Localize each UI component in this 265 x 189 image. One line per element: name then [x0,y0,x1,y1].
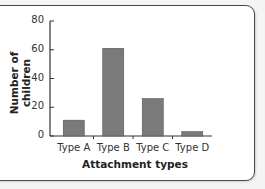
x-tick-label: Type D [172,142,212,153]
bars [63,48,203,136]
y-axis-label: Number of children [8,28,32,138]
x-tick-label: Type B [93,142,133,153]
x-tick-label: Type A [54,142,94,153]
bar-type-d [182,132,203,136]
bar-type-a [63,120,84,136]
x-axis-label: Attachment types [60,158,210,170]
bar-type-c [142,99,163,136]
x-tick-label: Type C [133,142,173,153]
bar-type-b [103,48,124,136]
y-tick-label: 80 [22,14,44,25]
